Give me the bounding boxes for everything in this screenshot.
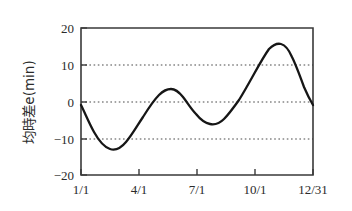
chart-canvas: 20 10 0 −10 −20 1/1 4/1 7/1 10/1 12/31 均… (0, 0, 352, 211)
x-tick-label-jul1: 7/1 (189, 182, 206, 197)
equation-of-time-chart: 20 10 0 −10 −20 1/1 4/1 7/1 10/1 12/31 均… (0, 0, 352, 211)
y-tick-label-0: 0 (68, 95, 75, 110)
y-tick-label-20: 20 (61, 21, 74, 36)
x-tick-label-dec31: 12/31 (298, 182, 328, 197)
y-axis-title: 均時差e(min) (21, 60, 37, 143)
x-tick-label-apr1: 4/1 (131, 182, 148, 197)
y-tick-label-10: 10 (61, 58, 74, 73)
x-tick-label-jan1: 1/1 (73, 182, 90, 197)
x-tick-label-oct1: 10/1 (243, 182, 266, 197)
y-tick-label-minus-20: −20 (54, 168, 74, 183)
y-axis-title-group: 均時差e(min) (21, 60, 37, 143)
y-tick-label-minus-10: −10 (54, 132, 74, 147)
